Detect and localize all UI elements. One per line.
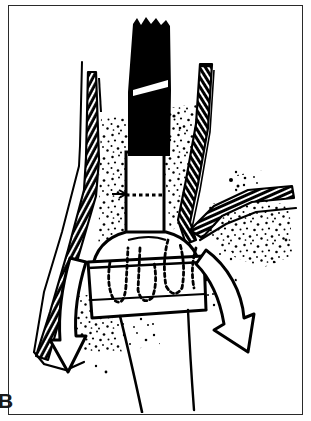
anatomical-illustration	[0, 0, 311, 421]
cuff-balloon	[88, 232, 206, 318]
figure-panel: B	[0, 0, 311, 421]
panel-label: B	[0, 388, 14, 414]
endoscope-shaft	[128, 17, 171, 156]
